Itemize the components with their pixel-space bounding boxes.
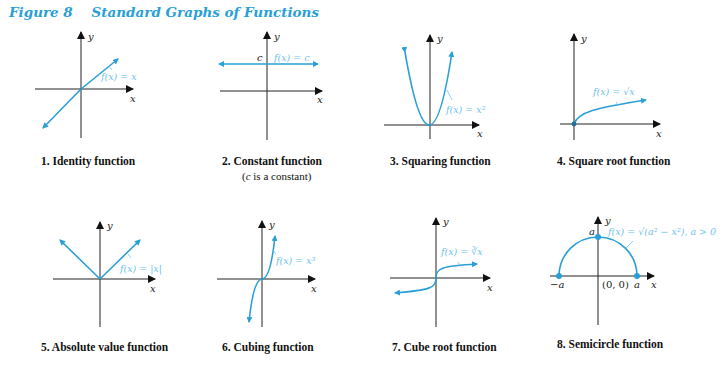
y-axis-label: y xyxy=(436,33,443,44)
caption-semicircle: 8. Semicircle function xyxy=(557,338,663,350)
function-label: f(x) = x² xyxy=(445,104,486,115)
y-axis-label: y xyxy=(273,31,280,42)
x-axis-label: x xyxy=(311,283,317,294)
curve-cubic-pos xyxy=(262,236,275,279)
x-axis-label: x xyxy=(487,282,493,293)
graph-identity: y x f(x) = x xyxy=(35,31,137,138)
subcaption-post: is a constant) xyxy=(251,170,312,182)
curve-identity-neg xyxy=(43,89,81,128)
x-axis-label: x xyxy=(477,128,483,139)
graph-semicircle: y x −a (0, 0) a a f(x) = √(a² − x²), a >… xyxy=(550,215,716,325)
function-label: f(x) = c xyxy=(273,52,310,63)
curve-cbrt-neg xyxy=(395,278,436,293)
caption-identity: 1. Identity function xyxy=(41,155,135,167)
graph-absolute-value: y x f(x) = |x| xyxy=(53,220,162,327)
y-axis-label: y xyxy=(604,215,611,226)
graph-constant: y x c f(x) = c xyxy=(219,31,323,140)
y-axis-label: y xyxy=(106,220,113,231)
caption-square-root: 4. Square root function xyxy=(557,155,670,167)
y-axis-label: y xyxy=(87,31,94,42)
function-label: f(x) = √(a² − x²), a > 0 xyxy=(607,226,716,237)
pos-a-label: a xyxy=(634,279,640,290)
subcaption-constant: (c is a constant) xyxy=(242,170,311,182)
caption-cube-root: 7. Cube root function xyxy=(392,341,497,353)
function-label: f(x) = x xyxy=(100,71,137,82)
point-top-a xyxy=(595,234,601,240)
c-label: c xyxy=(257,52,263,63)
y-axis-label: y xyxy=(268,219,275,230)
caption-constant: 2. Constant function xyxy=(222,155,322,167)
graph-square-root: y x f(x) = √x xyxy=(560,33,662,140)
function-label: f(x) = x³ xyxy=(275,255,316,266)
curve-cubic-neg xyxy=(249,279,262,322)
curve-parabola xyxy=(405,52,452,125)
origin-label: (0, 0) xyxy=(602,279,629,290)
neg-a-label: −a xyxy=(550,279,564,290)
graph-cubing: y x f(x) = x³ xyxy=(217,219,317,327)
caption-cubing: 6. Cubing function xyxy=(222,341,314,353)
function-label: f(x) = √x xyxy=(592,86,635,97)
x-axis-label: x xyxy=(150,283,156,294)
x-axis-label: x xyxy=(317,94,323,105)
y-axis-label: y xyxy=(580,33,587,44)
graph-cube-root: y x f(x) = ∛x xyxy=(390,216,493,327)
curve-sqrt xyxy=(574,100,646,124)
y-axis-label: y xyxy=(442,216,449,227)
x-axis-label: x xyxy=(130,93,136,104)
function-graphs: y x f(x) = x y x c f(x) = c y x f(x) = x… xyxy=(0,0,727,386)
curve-abs-left xyxy=(60,240,100,279)
x-axis-label: x xyxy=(651,279,657,290)
caption-absolute-value: 5. Absolute value function xyxy=(41,341,168,353)
graph-squaring: y x f(x) = x² xyxy=(384,33,486,139)
caption-squaring: 3. Squaring function xyxy=(390,155,491,167)
curve-cbrt-pos xyxy=(436,264,477,278)
function-label: f(x) = ∛x xyxy=(440,246,483,257)
function-label: f(x) = |x| xyxy=(119,263,162,275)
x-axis-label: x xyxy=(656,128,662,139)
top-a-label: a xyxy=(589,226,595,237)
